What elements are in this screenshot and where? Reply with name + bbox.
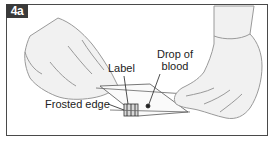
callout-drop-line2: blood: [148, 60, 202, 72]
callout-label: Label: [108, 62, 135, 74]
callout-drop-line1: Drop of: [148, 48, 202, 60]
callout-frosted-edge: Frosted edge: [45, 98, 110, 110]
callout-drop-of-blood: Drop of blood: [148, 48, 202, 72]
figure-badge: 4a: [6, 4, 28, 18]
illustration-gloved-hands-slide: [0, 0, 274, 143]
